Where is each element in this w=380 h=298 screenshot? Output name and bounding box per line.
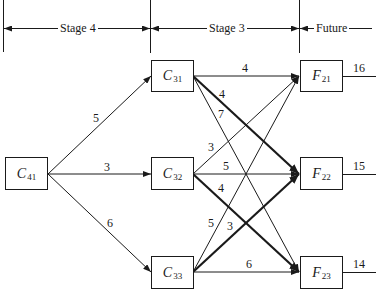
edge-weight-c41-c31: 5 xyxy=(93,112,99,124)
stage-label-4: Stage 4 xyxy=(58,22,98,34)
edge-weight-c32-f23: 4 xyxy=(218,182,224,194)
node-c31: C31 xyxy=(151,60,194,92)
edge-weight-c33-f21: 5 xyxy=(208,217,214,229)
node-f22: F22 xyxy=(300,157,343,190)
node-subscript: 21 xyxy=(322,74,331,84)
node-letter: C xyxy=(163,68,172,84)
future-value-f21: 16 xyxy=(353,62,365,74)
stage3-edges-thin xyxy=(193,76,299,272)
node-letter: C xyxy=(163,265,172,281)
node-subscript: 31 xyxy=(173,74,182,84)
stage-dividers xyxy=(4,0,300,53)
edge-weight-c31-f22: 4 xyxy=(219,88,225,100)
future-tails xyxy=(342,77,376,273)
stage-label-future: Future xyxy=(314,22,349,34)
edge-weight-c41-c33: 6 xyxy=(107,217,113,229)
node-c33: C33 xyxy=(151,256,194,289)
future-value-f23: 14 xyxy=(353,258,365,270)
edge-weight-c41-c32: 3 xyxy=(104,161,110,173)
future-value-f22: 15 xyxy=(353,160,365,172)
node-letter: F xyxy=(312,166,321,182)
node-letter: F xyxy=(312,68,321,84)
node-subscript: 33 xyxy=(173,271,182,281)
node-c41: C41 xyxy=(5,157,48,190)
stage4-edges xyxy=(48,76,151,272)
edge-weight-c32-f21: 3 xyxy=(208,141,214,153)
edge-weight-c31-f21: 4 xyxy=(242,62,248,74)
node-subscript: 41 xyxy=(27,172,36,182)
node-letter: C xyxy=(163,166,172,182)
node-subscript: 23 xyxy=(322,271,331,281)
edge-weight-c33-f22: 3 xyxy=(227,220,233,232)
stage-label-3: Stage 3 xyxy=(207,22,247,34)
node-f21: F21 xyxy=(300,60,343,92)
edge-weight-c32-f22: 5 xyxy=(223,160,229,172)
node-letter: C xyxy=(17,166,26,182)
node-subscript: 22 xyxy=(322,172,331,182)
node-f23: F23 xyxy=(300,256,343,289)
edge-weight-c31-f23: 7 xyxy=(218,108,224,120)
node-subscript: 32 xyxy=(173,172,182,182)
node-letter: F xyxy=(312,265,321,281)
network-diagram xyxy=(0,0,380,298)
edge-weight-c33-f23: 6 xyxy=(246,258,252,270)
node-c32: C32 xyxy=(151,157,194,190)
